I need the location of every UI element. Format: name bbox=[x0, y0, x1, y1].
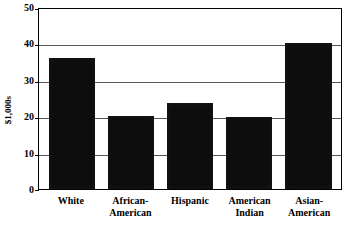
y-axis-tick-labels: 01020304050 bbox=[14, 0, 34, 230]
bar[interactable] bbox=[226, 117, 272, 189]
x-tick-label: African-American bbox=[101, 192, 161, 230]
x-tick-label: Asian-American bbox=[279, 192, 339, 230]
bar-slot bbox=[220, 9, 279, 189]
x-tick-label-line2: American bbox=[101, 207, 161, 219]
chart-figure: $1,000s 01020304050 WhiteAfrican-America… bbox=[0, 0, 350, 230]
y-tick-label: 30 bbox=[14, 76, 34, 86]
y-tick-label: 10 bbox=[14, 149, 34, 159]
bar-slot bbox=[160, 9, 219, 189]
bar[interactable] bbox=[167, 103, 213, 189]
x-tick-label-line1: African- bbox=[112, 195, 148, 206]
y-tick-label: 50 bbox=[14, 3, 34, 13]
bar[interactable] bbox=[285, 43, 331, 189]
bar-slot bbox=[42, 9, 101, 189]
x-tick-label-line1: White bbox=[58, 195, 84, 206]
x-tick-label: AmericanIndian bbox=[220, 192, 280, 230]
y-axis-title-text: $1,000s bbox=[3, 96, 13, 124]
y-tick-mark bbox=[35, 190, 39, 191]
x-tick-label-line2: American bbox=[279, 207, 339, 219]
x-tick-label: Hispanic bbox=[160, 192, 220, 230]
bar-series bbox=[39, 9, 341, 189]
bar-slot bbox=[101, 9, 160, 189]
y-tick-label: 0 bbox=[14, 185, 34, 195]
x-tick-label-line1: Hispanic bbox=[171, 195, 209, 206]
y-tick-label: 20 bbox=[14, 112, 34, 122]
x-tick-label-line1: Asian- bbox=[295, 195, 323, 206]
bar[interactable] bbox=[49, 58, 95, 189]
bar[interactable] bbox=[108, 116, 154, 189]
y-tick-label: 40 bbox=[14, 39, 34, 49]
x-tick-label-line1: American bbox=[228, 195, 270, 206]
x-tick-label-line2: Indian bbox=[220, 207, 280, 219]
plot-area bbox=[38, 8, 342, 190]
bar-slot bbox=[279, 9, 338, 189]
x-tick-label: White bbox=[41, 192, 101, 230]
x-axis-tick-labels: WhiteAfrican-AmericanHispanicAmericanInd… bbox=[38, 192, 342, 230]
